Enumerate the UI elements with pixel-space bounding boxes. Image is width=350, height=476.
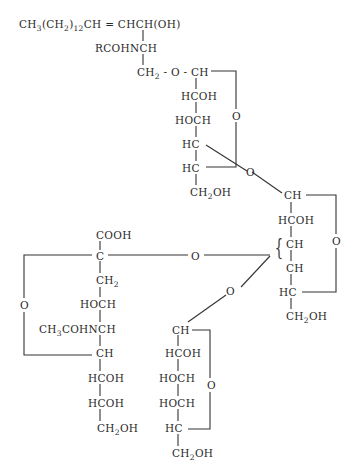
sugar2-c3-label: CH: [286, 238, 304, 250]
sugar3-c4-label: HOCH: [159, 397, 195, 409]
formula-text: (CH: [42, 18, 64, 30]
brace-symbol: {: [275, 237, 283, 259]
sugar2-c1-label: CH: [284, 189, 302, 201]
sugar1-c2-label: HCOH: [181, 90, 217, 102]
sialic-c8-label: HCOH: [88, 397, 124, 409]
formula-text: CH: [286, 310, 304, 322]
sialic-c4-label: HOCH: [80, 298, 116, 310]
sialic-linkage-oxygen: O: [191, 250, 200, 262]
ceramide-chain-label: CH3(CH2)12CH = CHCH(OH): [19, 18, 181, 30]
sugar2-c4-label: CH: [286, 262, 304, 274]
subscript-text: 12: [74, 24, 84, 33]
sialic-c9-label: CH2OH: [97, 422, 138, 434]
formula-text: COHNCH: [62, 323, 116, 335]
ceramide-linkage-label: CH2 - O - CH: [137, 66, 209, 78]
glycosidic-oxygen-1: O: [246, 166, 255, 178]
formula-text: OH: [195, 447, 213, 459]
glycosidic-oxygen-2: O: [226, 285, 235, 297]
subscript-text: 2: [114, 280, 119, 289]
sugar1-c6-label: CH2OH: [190, 186, 231, 198]
sugar1-c3-label: HOCH: [175, 114, 211, 126]
sialic-c7-label: HCOH: [88, 372, 124, 384]
formula-text: - O - CH: [160, 66, 209, 78]
formula-text: CH = CHCH(OH): [84, 18, 181, 30]
formula-text: CH: [96, 274, 114, 286]
sialic-c3-label: CH2: [96, 274, 119, 286]
sugar2-c5-label: HC: [279, 286, 297, 298]
sialic-c5-label: CH3COHNCH: [39, 323, 116, 335]
formula-text: CH: [190, 186, 208, 198]
formula-text: CH: [19, 18, 37, 30]
formula-text: CH: [97, 422, 115, 434]
sialic-c2-label: C: [96, 250, 104, 262]
sugar1-c5-label: HC: [182, 162, 200, 174]
sialic-cooh-label: COOH: [96, 229, 132, 241]
formula-text: OH: [213, 186, 231, 198]
sugar3-c2-label: HCOH: [165, 347, 201, 359]
formula-text: CH: [172, 447, 190, 459]
sugar2-c2-label: HCOH: [278, 214, 314, 226]
sugar2-ring-oxygen: O: [332, 235, 341, 247]
formula-text: OH: [120, 422, 138, 434]
sugar3-c1-label: CH: [172, 324, 190, 336]
ganglioside-structure-diagram: CH3(CH2)12CH = CHCH(OH) RCOHNCH CH2 - O …: [0, 0, 350, 476]
sugar3-c5-label: HC: [165, 422, 183, 434]
sugar1-c4-label: HC: [182, 138, 200, 150]
sugar1-ring-oxygen: O: [232, 110, 241, 122]
formula-text: CH: [39, 323, 57, 335]
sugar3-c3-label: HOCH: [159, 372, 195, 384]
sugar2-c6-label: CH2OH: [286, 310, 327, 322]
sialic-c6-label: CH: [96, 347, 114, 359]
sugar3-c6-label: CH2OH: [172, 447, 213, 459]
sialic-ring-oxygen: O: [20, 299, 29, 311]
formula-text: OH: [309, 310, 327, 322]
amide-label: RCOHNCH: [95, 42, 157, 54]
sugar3-ring-oxygen: O: [207, 379, 216, 391]
formula-text: CH: [137, 66, 155, 78]
